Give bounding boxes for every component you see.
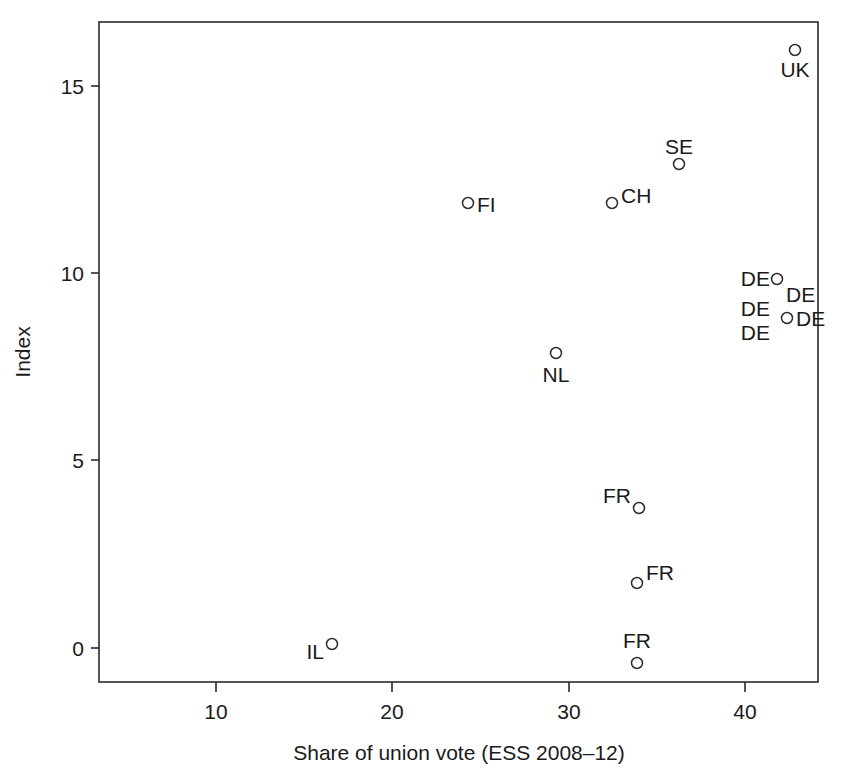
data-label-de-3: DE bbox=[741, 297, 770, 320]
data-label-uk: UK bbox=[780, 58, 809, 81]
scatter-plot-figure: 15 10 5 0 10 20 30 40 Share of union vot… bbox=[0, 0, 842, 778]
data-point-fr-2 bbox=[632, 578, 643, 589]
data-label-fi: FI bbox=[477, 193, 496, 216]
y-tick-label-5: 5 bbox=[72, 449, 84, 472]
data-label-fr-3: FR bbox=[623, 629, 651, 652]
data-point-de-2 bbox=[782, 313, 793, 324]
data-label-de-2: DE bbox=[786, 283, 815, 306]
x-axis-title: Share of union vote (ESS 2008–12) bbox=[293, 741, 625, 764]
data-point-nl bbox=[551, 348, 562, 359]
data-point-se bbox=[674, 159, 685, 170]
data-label-fr-1: FR bbox=[603, 484, 631, 507]
data-point-de-1 bbox=[772, 274, 783, 285]
data-point-ch bbox=[607, 198, 618, 209]
data-point-fi bbox=[463, 198, 474, 209]
data-label-de-4: DE bbox=[796, 307, 825, 330]
y-tick-label-15: 15 bbox=[61, 75, 84, 98]
data-label-de-1: DE bbox=[741, 267, 770, 290]
data-label-il: IL bbox=[306, 640, 324, 663]
plot-panel-border bbox=[99, 22, 818, 682]
x-tick-label-20: 20 bbox=[380, 700, 403, 723]
x-tick-label-40: 40 bbox=[733, 700, 756, 723]
data-label-nl: NL bbox=[543, 363, 570, 386]
y-tick-label-10: 10 bbox=[61, 262, 84, 285]
data-label-de-5: DE bbox=[741, 321, 770, 344]
y-axis-title: Index bbox=[11, 326, 34, 378]
y-tick-label-0: 0 bbox=[72, 637, 84, 660]
plot-svg: 15 10 5 0 10 20 30 40 Share of union vot… bbox=[0, 0, 842, 778]
data-point-fr-1 bbox=[634, 503, 645, 514]
data-label-ch: CH bbox=[621, 184, 651, 207]
data-point-uk bbox=[790, 45, 801, 56]
data-point-fr-3 bbox=[632, 658, 643, 669]
x-tick-label-30: 30 bbox=[557, 700, 580, 723]
data-label-fr-2: FR bbox=[646, 561, 674, 584]
data-label-se: SE bbox=[665, 135, 693, 158]
data-point-il bbox=[327, 639, 338, 650]
x-tick-label-10: 10 bbox=[204, 700, 227, 723]
